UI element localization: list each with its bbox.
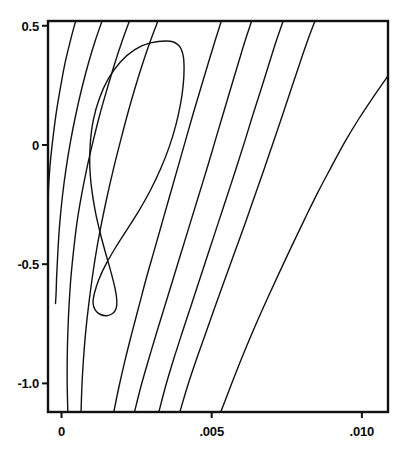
contour-plot-canvas [0,0,404,452]
contour-line [159,21,283,412]
contour-line [135,21,252,412]
y-axis-tick-label: 0.5 [22,18,39,33]
contour-plot-figure: 0.50-0.5-1.0 0.005.010 [0,0,404,452]
plot-frame-group [48,21,388,412]
contour-line [67,21,129,412]
contour-lines-group [48,21,388,412]
x-axis-tick-label: 0 [58,424,65,439]
y-axis-tick-label: -0.5 [17,257,39,272]
x-axis-tick-label: .005 [199,424,224,439]
plot-frame [48,21,388,412]
y-axis-tick-label: 0 [32,137,39,152]
contour-line [114,21,222,412]
contour-line [180,21,315,412]
contour-line [81,21,158,412]
y-axis-tick-label: -1.0 [17,376,39,391]
contour-line [221,76,388,412]
x-axis-tick-label: .010 [350,424,375,439]
